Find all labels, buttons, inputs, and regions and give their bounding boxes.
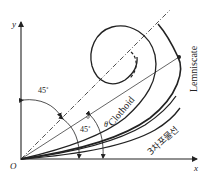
angle-label-top-45: 45˚	[38, 87, 49, 95]
transition-curve-diagram	[0, 0, 215, 184]
dashed-45-line	[21, 10, 170, 159]
chord-midpoint-marker	[87, 116, 90, 119]
lemniscate-point	[177, 55, 181, 59]
y-axis-label: y	[12, 20, 16, 29]
angle-label-bottom-45: 45˚	[80, 126, 91, 134]
x-axis-label: x	[194, 164, 198, 173]
origin-label: O	[10, 162, 17, 171]
lemniscate-label: Lemniscate	[189, 46, 199, 92]
angle-arc-top-45	[23, 100, 61, 117]
